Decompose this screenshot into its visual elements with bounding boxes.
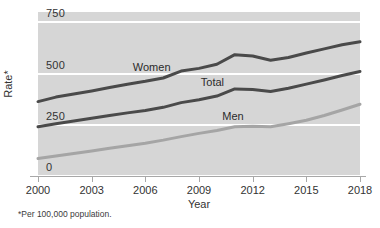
line-chart-figure: Rate* 0250500750 20002003200620092012201… bbox=[0, 0, 380, 228]
x-tick-mark-2012 bbox=[253, 177, 254, 182]
series-line-women bbox=[38, 42, 360, 102]
x-tick-mark-2003 bbox=[92, 177, 93, 182]
x-tick-label-2009: 2009 bbox=[187, 184, 211, 196]
x-axis-title: Year bbox=[188, 198, 210, 210]
series-label-total: Total bbox=[201, 76, 224, 88]
y-tick-label-500: 500 bbox=[46, 59, 65, 71]
y-tick-label-750: 750 bbox=[46, 7, 65, 19]
x-tick-label-2012: 2012 bbox=[240, 184, 264, 196]
x-axis-line bbox=[30, 176, 366, 177]
x-tick-mark-2009 bbox=[199, 177, 200, 182]
x-tick-mark-2006 bbox=[145, 177, 146, 182]
series-label-women: Women bbox=[133, 61, 171, 73]
footnote: *Per 100,000 population. bbox=[18, 209, 112, 219]
x-tick-label-2003: 2003 bbox=[79, 184, 103, 196]
x-tick-label-2006: 2006 bbox=[133, 184, 157, 196]
x-tick-mark-2015 bbox=[306, 177, 307, 182]
x-tick-label-2018: 2018 bbox=[348, 184, 372, 196]
series-line-men bbox=[38, 104, 360, 158]
x-tick-label-2015: 2015 bbox=[294, 184, 318, 196]
x-tick-mark-2000 bbox=[38, 177, 39, 182]
y-tick-label-250: 250 bbox=[46, 110, 65, 122]
y-axis-title: Rate* bbox=[2, 70, 14, 98]
x-tick-label-2000: 2000 bbox=[26, 184, 50, 196]
plot-area bbox=[38, 12, 360, 176]
y-tick-label-0: 0 bbox=[46, 161, 52, 173]
series-lines-layer bbox=[38, 12, 360, 176]
series-label-men: Men bbox=[222, 110, 243, 122]
x-tick-mark-2018 bbox=[360, 177, 361, 182]
